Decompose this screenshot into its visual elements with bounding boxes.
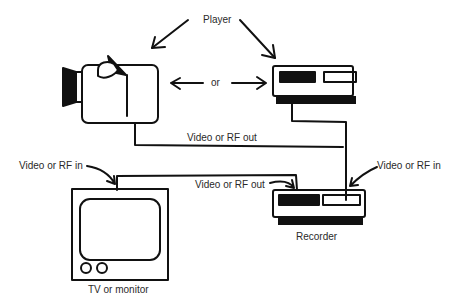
label-video-rf-in-right: Video or RF in	[377, 160, 441, 172]
connection-diagram: Player or Video or RF out Video or RF in…	[0, 0, 454, 307]
diagram-drawing	[0, 0, 454, 307]
label-tv: TV or monitor	[88, 284, 149, 296]
recorder-icon	[273, 190, 365, 225]
tv-icon	[72, 189, 168, 280]
label-or: or	[211, 77, 220, 89]
label-recorder: Recorder	[296, 231, 337, 243]
vcr-player-icon	[273, 66, 356, 104]
label-video-rf-out-mid: Video or RF out	[195, 179, 265, 191]
camera-icon	[63, 56, 158, 123]
label-player: Player	[203, 14, 231, 26]
label-video-rf-in-left: Video or RF in	[19, 160, 83, 172]
label-video-rf-out-top: Video or RF out	[187, 132, 257, 144]
